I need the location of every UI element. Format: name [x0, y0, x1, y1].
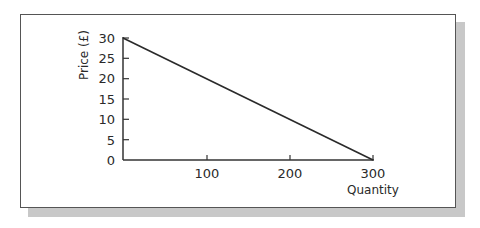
y-tick-label-25: 25	[98, 51, 115, 66]
x-tick-label-200: 200	[278, 166, 303, 181]
x-tick-label-100: 100	[195, 166, 220, 181]
y-tick-label-0: 0	[107, 153, 115, 168]
demand-line	[123, 38, 373, 160]
y-tick-label-10: 10	[98, 112, 115, 127]
chart-plot: 0 5 10 15 20 25 30 100 200 300 Quantity …	[0, 0, 480, 228]
y-tick-label-20: 20	[98, 71, 115, 86]
y-ticks	[123, 38, 129, 140]
y-tick-label-5: 5	[107, 133, 115, 148]
y-axis-title: Price (£)	[77, 30, 91, 80]
y-tick-label-15: 15	[98, 92, 115, 107]
x-axis-title: Quantity	[347, 183, 399, 197]
x-tick-label-300: 300	[361, 166, 386, 181]
y-tick-label-30: 30	[98, 31, 115, 46]
